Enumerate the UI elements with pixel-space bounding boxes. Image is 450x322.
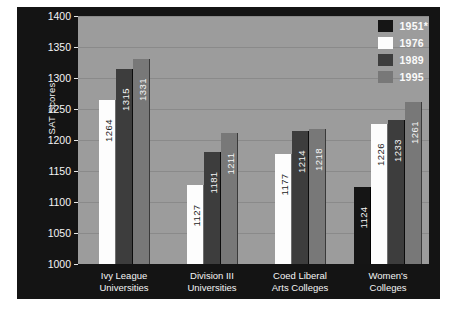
legend-swatch xyxy=(378,37,393,49)
bar-value-label: 1177 xyxy=(278,162,289,208)
bar[interactable]: 1181 xyxy=(204,152,221,264)
y-tick-label: 1050 xyxy=(35,228,71,238)
legend-item[interactable]: 1976 xyxy=(378,35,428,50)
bar[interactable]: 1124 xyxy=(354,187,371,264)
bar-value-container: 1315 xyxy=(116,72,133,118)
chart-legend: 1951*197619891995 xyxy=(378,18,428,86)
x-category-label-line: Ivy League xyxy=(74,270,174,282)
bar-value-label: 1315 xyxy=(119,76,130,122)
x-category-label: Ivy LeagueUniversities xyxy=(74,270,174,293)
legend-label: 1976 xyxy=(400,37,424,49)
gridline xyxy=(78,16,429,17)
bar-value-container: 1177 xyxy=(275,157,292,203)
y-tick-label: 1300 xyxy=(35,73,71,83)
legend-swatch xyxy=(378,20,393,32)
bar[interactable]: 1261 xyxy=(405,102,422,264)
x-category-label-line: Arts Colleges xyxy=(250,282,350,294)
bar-value-container: 1211 xyxy=(221,136,238,182)
bar-value-label: 1226 xyxy=(375,131,386,177)
x-category-label-line: Women's xyxy=(338,270,438,282)
x-category-label-line: Colleges xyxy=(338,282,438,294)
bar-value-label: 1127 xyxy=(190,193,201,239)
bar-value-container: 1331 xyxy=(133,62,150,108)
chart-panel: SAT Scores 14001350130012501200115011001… xyxy=(17,7,440,299)
gridline xyxy=(78,47,429,48)
legend-label: 1989 xyxy=(400,54,424,66)
y-tick-label: 1200 xyxy=(35,135,71,145)
y-tick-label: 1250 xyxy=(35,104,71,114)
bar-value-label: 1181 xyxy=(207,159,218,205)
bar[interactable]: 1331 xyxy=(133,59,150,264)
bar[interactable]: 1214 xyxy=(292,131,309,264)
bar-value-label: 1264 xyxy=(102,108,113,154)
bar-value-container: 1218 xyxy=(309,132,326,178)
bar[interactable]: 1218 xyxy=(309,129,326,264)
legend-item[interactable]: 1995 xyxy=(378,69,428,84)
bar-value-container: 1233 xyxy=(388,123,405,169)
y-tick-label: 1400 xyxy=(35,11,71,21)
legend-label: 1995 xyxy=(400,71,424,83)
bar-value-label: 1124 xyxy=(358,195,369,241)
x-category-label-line: Coed Liberal xyxy=(250,270,350,282)
legend-swatch xyxy=(378,54,393,66)
bar-value-label: 1218 xyxy=(312,136,323,182)
bar-value-label: 1214 xyxy=(295,139,306,185)
y-tick-mark xyxy=(74,264,78,265)
plot-area: 1264131513311127118112111177121412181124… xyxy=(78,16,429,264)
legend-item[interactable]: 1989 xyxy=(378,52,428,67)
bar-value-container: 1214 xyxy=(292,134,309,180)
legend-label: 1951* xyxy=(400,20,428,32)
x-category-label-line: Division III xyxy=(162,270,262,282)
legend-item[interactable]: 1951* xyxy=(378,18,428,33)
bar-value-container: 1264 xyxy=(99,103,116,149)
bar-value-label: 1211 xyxy=(224,141,235,187)
y-tick-label: 1150 xyxy=(35,166,71,176)
y-tick-label: 1000 xyxy=(35,259,71,269)
bar-value-container: 1261 xyxy=(405,105,422,151)
bar[interactable]: 1233 xyxy=(388,120,405,264)
bar-value-label: 1261 xyxy=(409,110,420,156)
y-tick-label: 1350 xyxy=(35,42,71,52)
bar[interactable]: 1211 xyxy=(221,133,238,264)
bar[interactable]: 1315 xyxy=(116,69,133,264)
bar-value-container: 1124 xyxy=(354,190,371,236)
x-category-label: Women'sColleges xyxy=(338,270,438,293)
x-category-label: Division IIIUniversities xyxy=(162,270,262,293)
legend-swatch xyxy=(378,71,393,83)
x-category-label-line: Universities xyxy=(162,282,262,294)
bar[interactable]: 1127 xyxy=(187,185,204,264)
bar[interactable]: 1226 xyxy=(371,124,388,264)
bar-value-label: 1331 xyxy=(136,66,147,112)
y-tick-label: 1100 xyxy=(35,197,71,207)
bar[interactable]: 1177 xyxy=(275,154,292,264)
bar-value-container: 1127 xyxy=(187,188,204,234)
bar[interactable]: 1264 xyxy=(99,100,116,264)
bar-value-container: 1226 xyxy=(371,127,388,173)
bar-value-label: 1233 xyxy=(392,127,403,173)
bar-value-container: 1181 xyxy=(204,155,221,201)
x-category-label: Coed LiberalArts Colleges xyxy=(250,270,350,293)
figure-root: SAT Scores 14001350130012501200115011001… xyxy=(0,0,450,322)
x-category-label-line: Universities xyxy=(74,282,174,294)
